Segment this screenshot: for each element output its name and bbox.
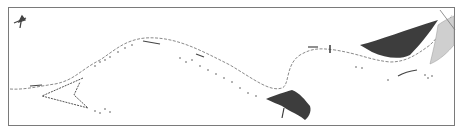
map-frame: [9, 8, 455, 126]
south-deposit-tail: [282, 108, 284, 118]
north-arrow-icon: [14, 16, 26, 28]
shoreline-marks: [30, 41, 417, 86]
south-dark-deposit: [266, 90, 311, 120]
east-dark-deposit: [360, 20, 438, 58]
left-lagoon-spit: [42, 78, 88, 108]
map-canvas: [0, 0, 463, 136]
